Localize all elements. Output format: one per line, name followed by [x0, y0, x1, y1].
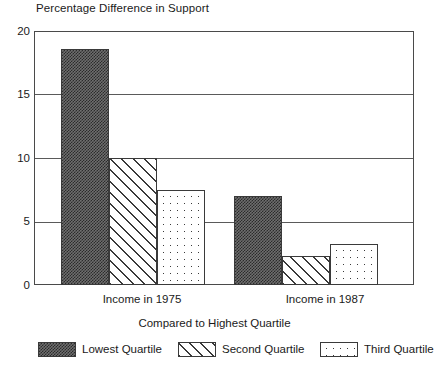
y-axis-tick-15: 15: [2, 88, 30, 100]
legend-label-second: Second Quartile: [222, 343, 304, 355]
legend-item-second-quartile: Second Quartile: [178, 340, 304, 358]
bar-lowest-quartile-1987: [234, 196, 282, 285]
legend-item-third-quartile: Third Quartile: [320, 340, 434, 358]
category-label-1987: Income in 1987: [245, 293, 405, 305]
legend-item-lowest-quartile: Lowest Quartile: [38, 340, 162, 358]
bar-lowest-quartile-1975: [61, 49, 109, 285]
bar-second-quartile-1975: [109, 158, 157, 285]
legend-swatch-icon-third: [320, 342, 358, 357]
legend-label-lowest: Lowest Quartile: [82, 343, 162, 355]
bars-layer: [34, 31, 414, 285]
y-axis-tick-5: 5: [2, 215, 30, 227]
y-axis-tick-10: 10: [2, 152, 30, 164]
x-axis-label: Compared to Highest Quartile: [0, 317, 429, 329]
legend-swatch-icon-lowest: [38, 342, 76, 357]
category-label-1975: Income in 1975: [62, 293, 222, 305]
legend: Lowest Quartile Second Quartile Third Qu…: [0, 340, 429, 362]
bar-second-quartile-1987: [282, 256, 330, 285]
y-axis-tick-0: 0: [2, 279, 30, 291]
y-axis-tick-20: 20: [2, 25, 30, 37]
bar-third-quartile-1975: [157, 190, 205, 285]
chart-title: Percentage Difference in Support: [36, 2, 209, 14]
legend-swatch-icon-second: [178, 342, 216, 357]
bar-third-quartile-1987: [330, 244, 378, 285]
legend-label-third: Third Quartile: [364, 343, 434, 355]
